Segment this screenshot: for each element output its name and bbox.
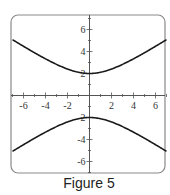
y-tick-label: 4 bbox=[81, 46, 86, 57]
figure-caption: Figure 5 bbox=[0, 175, 170, 191]
x-tick-label: -4 bbox=[41, 100, 49, 111]
y-tick-label: -4 bbox=[77, 134, 85, 145]
x-tick-label: -2 bbox=[63, 100, 71, 111]
y-tick-label: 6 bbox=[81, 24, 86, 35]
x-tick-label: -6 bbox=[19, 100, 27, 111]
x-tick-label: 2 bbox=[109, 100, 114, 111]
x-tick-label: 4 bbox=[131, 100, 136, 111]
hyperbola-plot: -6-4-2246642-2-4-6 bbox=[0, 0, 170, 195]
x-tick-label: 6 bbox=[153, 100, 158, 111]
y-tick-label: -6 bbox=[77, 156, 85, 167]
